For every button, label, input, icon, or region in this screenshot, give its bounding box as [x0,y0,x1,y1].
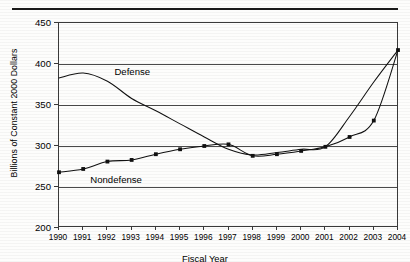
x-tick-label: 2000 [291,232,309,242]
x-tick-label: 1996 [194,232,212,242]
x-tick-label: 1998 [242,232,260,242]
x-tick-label: 2002 [339,232,357,242]
x-tick-label: 1990 [49,232,67,242]
x-tick-label: 1995 [170,232,188,242]
data-point-marker [372,119,376,123]
data-point-marker [275,152,279,156]
y-axis-label: Billions of Constant 2000 Dollars [9,13,19,213]
data-point-marker [57,170,61,174]
data-point-marker [106,160,110,164]
chart-figure: Billions of Constant 2000 Dollars 200250… [0,0,410,262]
x-axis-title: Fiscal Year [0,253,410,262]
x-tick-label: 1992 [97,232,115,242]
data-point-marker [178,147,182,151]
data-point-marker [202,144,206,148]
x-tick-label: 1997 [218,232,236,242]
series-line-defense [59,50,398,155]
y-tick-label: 250 [35,181,51,192]
y-axis-label-container: Billions of Constant 2000 Dollars [0,0,16,262]
y-tick-label: 450 [35,17,51,28]
data-point-marker [130,158,134,162]
x-tick-label: 2003 [364,232,382,242]
series-canvas [59,23,399,228]
y-tick-label: 200 [35,222,51,233]
data-point-marker [81,167,85,171]
x-tick-label: 1993 [121,232,139,242]
series-label-nondefense: Nondefense [90,174,142,185]
x-tick-label: 1999 [267,232,285,242]
series-label-defense: Defense [114,66,150,77]
x-tick-label: 1994 [146,232,164,242]
plot-area [58,22,398,227]
x-tick-label: 1991 [73,232,91,242]
data-point-marker [396,48,400,52]
data-point-marker [227,142,231,146]
x-tick-label: 2004 [388,232,406,242]
y-tick-label: 300 [35,140,51,151]
data-point-marker [154,152,158,156]
data-point-marker [299,149,303,153]
data-point-marker [323,145,327,149]
data-point-marker [348,135,352,139]
data-point-marker [251,154,255,158]
series-line-nondefense [59,50,398,172]
top-rule [12,8,398,10]
x-tick-label: 2001 [315,232,333,242]
y-tick-label: 400 [35,58,51,69]
y-tick-label: 350 [35,99,51,110]
